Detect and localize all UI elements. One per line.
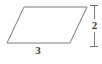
height-dimension-label: 2 bbox=[88, 19, 101, 32]
base-length-label: 3 bbox=[30, 45, 46, 56]
parallelogram-shape bbox=[7, 7, 87, 43]
parallelogram-figure: 3 2 bbox=[0, 0, 102, 64]
figure-canvas bbox=[0, 0, 102, 64]
